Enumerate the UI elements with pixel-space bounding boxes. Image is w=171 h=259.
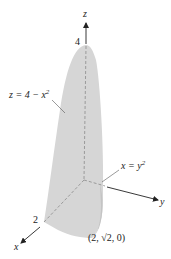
parabolic-cylinder-exponent: 2	[46, 88, 50, 96]
base-curve-label: x = y2	[121, 161, 145, 171]
x-axis-arrow	[21, 227, 40, 243]
solid-region-diagram	[0, 0, 171, 259]
z-axis-label: z	[83, 9, 87, 19]
parabolic-cylinder-label: z = 4 − x2	[9, 90, 49, 100]
leader-line-base-curve	[102, 170, 119, 182]
y-axis-label: y	[160, 197, 164, 207]
x-axis-label: x	[14, 242, 18, 252]
base-curve-exponent: 2	[142, 159, 146, 167]
parabolic-cylinder-surface	[44, 45, 103, 238]
parabolic-cylinder-equation: z = 4 − x	[9, 89, 46, 100]
z-tick-label: 4	[75, 37, 80, 47]
x-tick-label: 2	[33, 215, 38, 225]
base-curve-equation: x = y	[121, 160, 142, 171]
y-axis-arrow	[107, 187, 158, 200]
corner-point-label: (2, √2, 0)	[88, 233, 125, 243]
